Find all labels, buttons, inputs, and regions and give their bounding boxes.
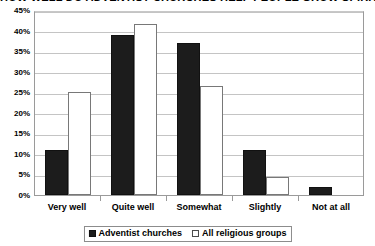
legend-swatch-icon [88,230,95,237]
bar-chart: HOW WELL DO ADVENTIST CHURCHES HELP PEOP… [0,0,375,246]
y-axis-tick-label: 20% [2,110,30,118]
x-axis-category-label: Quite well [100,201,166,213]
legend-label: Adventist churches [98,228,182,239]
y-axis-tick-label: 10% [2,151,30,159]
y-axis-tick-label: 40% [2,28,30,36]
y-axis-tick-label: 35% [2,48,30,56]
y-axis-tick-label: 45% [2,7,30,15]
bar [45,150,68,195]
x-axis-category-label: Somewhat [166,201,232,213]
y-axis-tick-label: 25% [2,89,30,97]
bar [200,86,223,195]
bar [309,187,332,195]
chart-title: HOW WELL DO ADVENTIST CHURCHES HELP PEOP… [0,0,375,2]
x-axis-category-label: Not at all [298,201,364,213]
chart-legend: Adventist churchesAll religious groups [83,226,291,242]
y-axis-tick-label: 0% [2,192,30,200]
y-axis-tick-label: 15% [2,130,30,138]
bar [177,43,200,195]
legend-swatch-icon [192,230,199,237]
legend-item[interactable]: All religious groups [192,228,287,239]
bar [266,177,289,196]
legend-label: All religious groups [202,228,287,239]
y-axis-tick-label: 5% [2,171,30,179]
plot-area [34,11,364,196]
bar [134,24,157,195]
gridline [35,32,363,33]
bar [243,150,266,195]
legend-item[interactable]: Adventist churches [88,228,182,239]
x-axis-category-label: Very well [34,201,100,213]
bar [111,35,134,195]
gridline [35,12,363,13]
y-axis-tick-label: 30% [2,69,30,77]
x-axis-category-label: Slightly [232,201,298,213]
bar [68,92,91,195]
